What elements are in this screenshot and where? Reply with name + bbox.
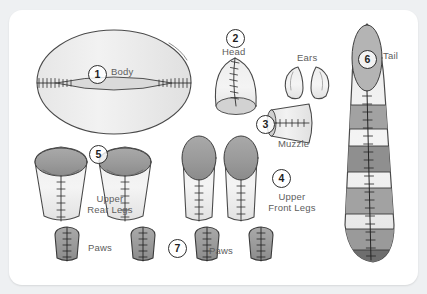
page-root: 1 2 3 4 5 6 7 Body Head Ears Muzzle Uppe… <box>0 0 427 294</box>
part-number-upper-rear-legs[interactable]: 5 <box>89 145 108 164</box>
part-number-paws[interactable]: 7 <box>168 239 187 258</box>
part-shape-upper-front-leg-left <box>182 136 216 221</box>
diagram-card: 1 2 3 4 5 6 7 Body Head Ears Muzzle Uppe… <box>9 10 418 285</box>
part-number-tail[interactable]: 6 <box>358 50 377 69</box>
part-number-head[interactable]: 2 <box>226 29 245 48</box>
part-shape-paw-1 <box>55 227 79 261</box>
part-shape-head <box>215 58 256 115</box>
part-shape-body <box>37 30 191 134</box>
pattern-pieces-diagram <box>9 10 418 285</box>
part-shape-paw-2 <box>131 227 155 261</box>
part-shape-paw-4 <box>249 227 273 261</box>
part-shape-upper-front-leg-right <box>224 136 258 221</box>
part-shape-paw-3 <box>195 227 219 261</box>
part-number-upper-front-legs[interactable]: 4 <box>272 169 291 188</box>
part-number-muzzle[interactable]: 3 <box>256 115 275 134</box>
part-shape-ears <box>285 67 329 99</box>
part-shape-upper-rear-leg-left <box>35 147 87 221</box>
part-number-body[interactable]: 1 <box>88 65 107 84</box>
